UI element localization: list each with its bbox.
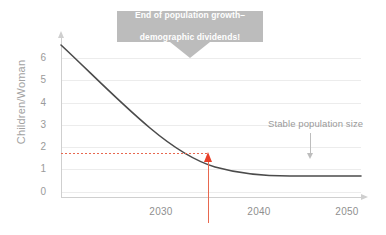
stable-population-arrow-icon <box>307 153 313 159</box>
callout-arrow-icon <box>170 42 210 58</box>
stable-population-label: Stable population size <box>268 118 363 129</box>
callout-line-1: End of population growth– <box>129 10 251 21</box>
replacement-level-dotted-line <box>61 153 209 154</box>
replacement-arrow-icon <box>204 152 212 162</box>
replacement-year-line <box>208 160 209 223</box>
callout-banner: End of population growth– demographic di… <box>117 11 263 42</box>
stable-population-pointer-line <box>310 133 311 154</box>
fertility-rate-chart: Children/Woman 6 5 4 3 2 1 0 2030 2040 2… <box>0 0 386 235</box>
